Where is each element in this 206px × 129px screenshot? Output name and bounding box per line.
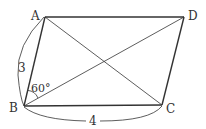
vertex-label-d: D <box>188 9 198 23</box>
diagonal-AC <box>45 17 162 105</box>
side-length-bc: 4 <box>89 114 97 128</box>
vertex-label-c: C <box>166 102 175 116</box>
vertex-label-b: B <box>9 101 18 115</box>
side-length-ab: 3 <box>18 61 26 75</box>
angle-label: 60° <box>31 82 51 95</box>
vertex-label-a: A <box>30 9 40 23</box>
side-CD <box>162 17 184 105</box>
parallelogram-diagram: A B C D 3 4 60° <box>0 0 206 129</box>
side-BC <box>24 105 162 106</box>
